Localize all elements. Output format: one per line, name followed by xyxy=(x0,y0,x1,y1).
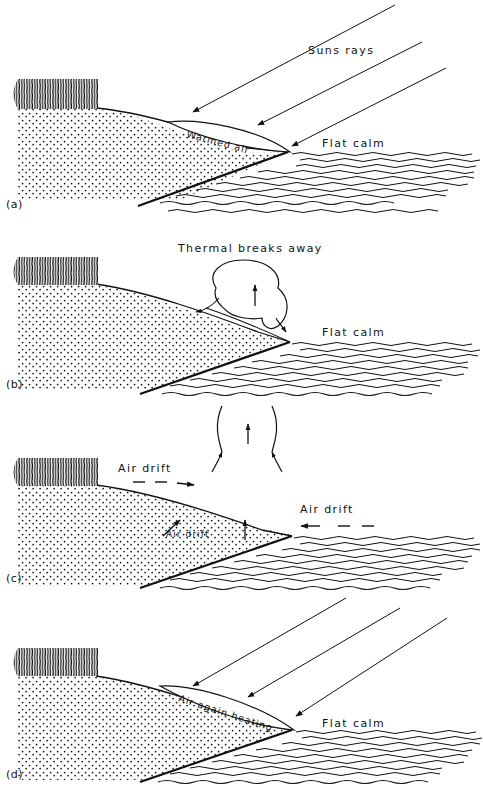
cliff-block-d xyxy=(14,648,99,677)
flat-calm-label-d: Flat calm xyxy=(322,717,385,730)
sun-rays-label: Suns rays xyxy=(308,44,374,57)
cliff-block-c xyxy=(14,458,99,486)
air-drift-sea-label: Air drift xyxy=(300,503,354,516)
panel-b: Thermal breaks away Flat calm xyxy=(0,222,483,400)
panel-d: Air again heating Flat calm xyxy=(0,596,483,791)
flat-calm-label-b: Flat calm xyxy=(322,326,385,339)
cliff-block-b xyxy=(14,257,99,285)
air-drift-slope-label: Air drift xyxy=(166,529,210,539)
panel-a: Warmed air Suns rays Flat calm xyxy=(0,0,483,222)
land-slope-a xyxy=(18,108,288,206)
panel-label-a: (a) xyxy=(6,198,23,211)
thermal-breaks-away-label: Thermal breaks away xyxy=(177,242,323,255)
land-slope-d xyxy=(18,676,292,782)
panel-label-d: (d) xyxy=(6,768,23,781)
cliff-block-a xyxy=(14,79,99,109)
panel-label-c: (c) xyxy=(6,572,22,585)
panel-c: Air drift Air drift Air drift xyxy=(0,400,483,596)
air-drift-top-arrow xyxy=(133,482,194,485)
panel-label-b: (b) xyxy=(6,378,23,391)
air-drift-top-label: Air drift xyxy=(118,462,172,475)
sun-rays-a xyxy=(193,5,446,146)
land-slope-c xyxy=(18,485,292,588)
flat-calm-label-a: Flat calm xyxy=(322,137,385,150)
detached-thermal-c xyxy=(212,406,282,472)
